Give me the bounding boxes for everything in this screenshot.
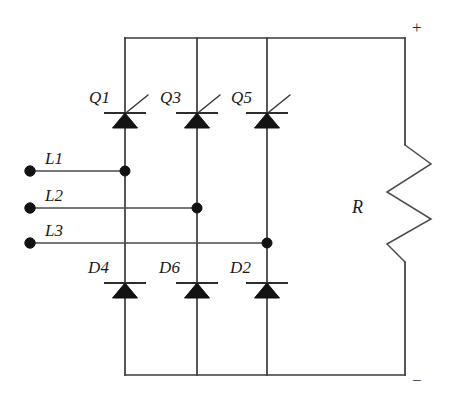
q5-gate-lead: [269, 95, 290, 112]
q3-gate-lead: [199, 95, 220, 112]
label-r: R: [352, 198, 363, 216]
terminal-dot-l3[interactable]: [25, 238, 35, 248]
label-l2: L2: [45, 187, 63, 204]
thyristor-q1[interactable]: [104, 95, 148, 128]
q1-anode-triangle: [113, 113, 138, 128]
diode-d4[interactable]: [104, 283, 146, 298]
d6-anode-triangle: [185, 283, 210, 298]
schematic-svg: [0, 0, 452, 396]
label-q1: Q1: [89, 89, 110, 106]
q1-gate-lead: [127, 95, 148, 112]
diode-d2[interactable]: [246, 283, 288, 298]
terminal-dot-l2[interactable]: [25, 203, 35, 213]
q3-anode-triangle: [185, 113, 210, 128]
label-d4: D4: [88, 259, 109, 276]
junction-dot-l1: [120, 166, 130, 176]
label-d2: D2: [230, 259, 251, 276]
label-q3: Q3: [160, 89, 181, 106]
q5-anode-triangle: [255, 113, 280, 128]
label-l3: L3: [45, 222, 63, 239]
thyristor-q5[interactable]: [246, 95, 290, 128]
circuit-diagram-canvas: Q1 Q3 Q5 D4 D6 D2 L1 L2 L3 R + −: [0, 0, 452, 396]
d4-anode-triangle: [113, 283, 138, 298]
terminal-dot-l1[interactable]: [25, 166, 35, 176]
diode-d6[interactable]: [176, 283, 218, 298]
thyristor-q3[interactable]: [176, 95, 220, 128]
resistor-zigzag: [387, 145, 431, 262]
polarity-negative: −: [412, 372, 422, 389]
label-d6: D6: [159, 259, 180, 276]
label-l1: L1: [45, 150, 63, 167]
d2-anode-triangle: [255, 283, 280, 298]
junction-dot-l3: [262, 238, 272, 248]
junction-dot-l2: [192, 203, 202, 213]
label-q5: Q5: [231, 89, 252, 106]
polarity-positive: +: [412, 19, 422, 36]
